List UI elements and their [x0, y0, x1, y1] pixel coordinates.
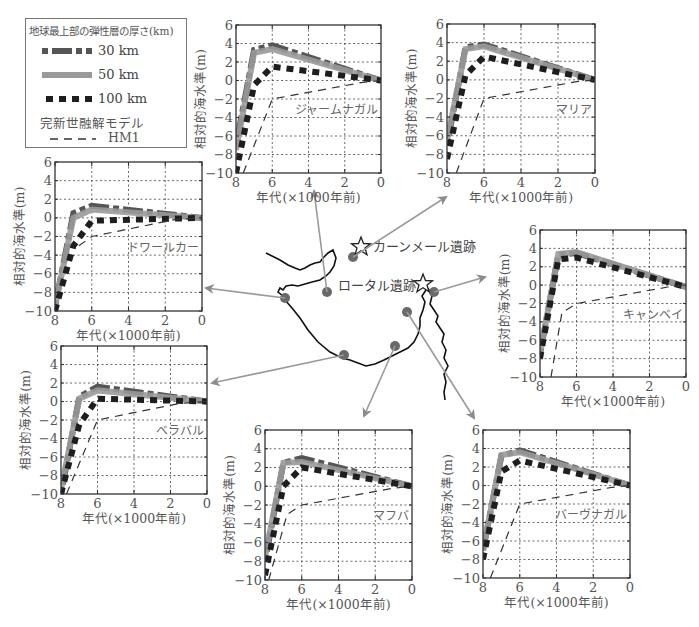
legend-item-100km: 100 km — [26, 91, 186, 107]
y-tick-label: −6 — [461, 534, 480, 549]
x-tick-label: 0 — [203, 496, 211, 511]
connector-arrows — [206, 191, 485, 418]
chart-mahuva: 864206420−2−4−6−8−10年代(×1000年前)相対的海水準(m)… — [222, 423, 416, 613]
legend-swatch-30km — [26, 43, 96, 59]
x-tick-label: 2 — [161, 313, 169, 328]
y-tick-label: −6 — [518, 333, 537, 348]
y-tick-label: 2 — [50, 376, 58, 391]
y-tick-label: 2 — [472, 460, 480, 475]
x-tick-label: 2 — [166, 496, 174, 511]
y-tick-label: 6 — [436, 17, 444, 32]
arrow-to-dwarka — [206, 288, 285, 298]
y-tick-label: 6 — [254, 423, 262, 438]
x-tick-label: 2 — [341, 175, 349, 190]
x-tick-label: 2 — [645, 379, 653, 394]
x-tick-label: 2 — [371, 582, 379, 597]
x-tick-label: 4 — [552, 580, 560, 595]
series-hm1 — [456, 80, 595, 173]
y-tick-label: 4 — [529, 241, 537, 256]
chart-site-label: バーヴナガル — [555, 507, 627, 522]
y-tick-label: −4 — [243, 516, 262, 531]
x-axis-title: 年代(×1000年前) — [82, 511, 186, 526]
y-tick-label: 4 — [254, 441, 262, 456]
y-tick-label: −6 — [33, 266, 52, 281]
series-hm1 — [269, 486, 412, 580]
chart-site-label: ベラバル — [156, 424, 204, 438]
y-tick-label: −6 — [214, 129, 233, 144]
site-label-lothal: ロータル遺跡 — [338, 278, 416, 293]
y-axis-title: 相対的海水準(m) — [497, 254, 512, 354]
x-tick-label: 4 — [334, 582, 342, 597]
y-tick-label: −10 — [417, 166, 444, 181]
chart-site-label: マフバ — [373, 509, 409, 523]
y-tick-label: −4 — [214, 110, 233, 125]
x-tick-label: 6 — [268, 175, 276, 190]
chart-bhavnagar: 864206420−2−4−6−8−10年代(×1000年前)相対的海水準(m)… — [440, 423, 634, 611]
y-tick-label: 6 — [44, 155, 52, 170]
chart-site-label: ドワールカー — [127, 241, 199, 255]
x-tick-label: 0 — [591, 175, 599, 190]
y-tick-label: −2 — [425, 91, 444, 106]
chart-veraval: 864206420−2−4−6−8−10年代(×1000年前)相対的海水準(m)… — [18, 339, 211, 527]
y-tick-label: −6 — [425, 128, 444, 143]
y-tick-label: −10 — [25, 304, 52, 319]
y-tick-label: −8 — [39, 468, 58, 483]
y-tick-label: 4 — [225, 36, 233, 51]
y-tick-label: 2 — [529, 259, 537, 274]
legend-label-hm1: HM1 — [108, 130, 140, 145]
arrow-to-veraval — [212, 355, 344, 383]
y-tick-label: 0 — [472, 478, 480, 493]
x-tick-label: 2 — [554, 175, 562, 190]
legend-label-50km: 50 km — [98, 67, 139, 82]
y-axis-title: 相対的海水準(m) — [193, 49, 208, 149]
x-axis-title: 年代(×1000年前) — [286, 597, 390, 612]
x-tick-label: 4 — [517, 175, 525, 190]
y-tick-label: −4 — [39, 431, 58, 446]
figure: カーンメール遺跡 ロータル遺跡 864206420−2−4−6−8−10年代(×… — [0, 0, 699, 627]
y-tick-label: −8 — [425, 147, 444, 162]
star-icon-lothal — [414, 274, 433, 292]
x-tick-label: 8 — [479, 580, 487, 595]
y-tick-label: −10 — [510, 370, 537, 385]
x-tick-label: 6 — [572, 379, 580, 394]
y-tick-label: 4 — [436, 35, 444, 50]
y-tick-label: 6 — [472, 423, 480, 438]
y-tick-label: −8 — [461, 552, 480, 567]
x-tick-label: 8 — [232, 175, 240, 190]
y-tick-label: 4 — [50, 357, 58, 372]
y-tick-label: 0 — [44, 210, 52, 225]
x-tick-label: 2 — [589, 580, 597, 595]
x-axis-title: 年代(×1000年前) — [469, 190, 573, 205]
y-tick-label: −4 — [461, 515, 480, 530]
y-tick-label: 6 — [225, 18, 233, 33]
x-tick-label: 4 — [609, 379, 617, 394]
y-tick-label: −4 — [518, 314, 537, 329]
legend-swatch-hm1 — [26, 131, 96, 147]
y-tick-label: −8 — [214, 147, 233, 162]
x-tick-label: 8 — [51, 313, 59, 328]
legend-title: 地球最上部の弾性層の厚さ(km) — [29, 23, 174, 38]
site-label-kanmer: カーンメール遺跡 — [373, 239, 476, 254]
gujarat-map: カーンメール遺跡 ロータル遺跡 — [266, 237, 476, 400]
y-tick-label: 2 — [436, 54, 444, 69]
y-tick-label: 2 — [44, 192, 52, 207]
x-tick-label: 0 — [377, 175, 385, 190]
y-tick-label: −2 — [518, 296, 537, 311]
x-tick-label: 0 — [682, 379, 690, 394]
y-tick-label: 0 — [225, 73, 233, 88]
y-tick-label: 2 — [225, 55, 233, 70]
legend-swatch-100km — [26, 91, 96, 107]
y-axis-title: 相対的海水準(m) — [222, 455, 237, 555]
chart-khambhat: 864206420−2−4−6−8−10年代(×1000年前)相対的海水準(m)… — [497, 223, 690, 410]
x-tick-label: 6 — [516, 580, 524, 595]
chart-site-label: キャンベイ — [623, 308, 683, 322]
chart-dwarka: 864206420−2−4−6−8−10年代(×1000年前)相対的海水準(m)… — [12, 155, 206, 344]
arrow-to-khambhat — [434, 277, 485, 292]
series-hm1 — [490, 486, 630, 579]
y-tick-label: −2 — [214, 92, 233, 107]
y-tick-label: 0 — [529, 278, 537, 293]
legend-swatch-50km — [26, 67, 96, 83]
legend-item-30km: 30 km — [26, 43, 186, 59]
x-tick-label: 8 — [57, 496, 65, 511]
y-tick-label: −2 — [461, 497, 480, 512]
